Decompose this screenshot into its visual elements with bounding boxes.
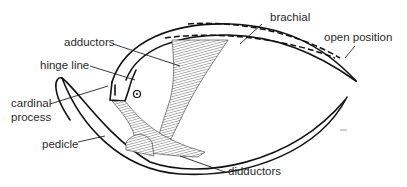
label-hinge-line: hinge line (40, 59, 89, 71)
adductor-muscle (155, 40, 228, 152)
label-open-position: open position (324, 31, 392, 43)
label-process: process (11, 111, 52, 123)
label-cardinal: cardinal (11, 97, 51, 109)
brachiopod-diagram: brachial open position adductors hinge l… (0, 0, 407, 187)
pedicle-valve (56, 78, 347, 175)
label-pedicle: pedicle (42, 138, 78, 150)
label-adductors: adductors (64, 36, 115, 48)
label-didductors: didductors (228, 165, 281, 177)
label-brachial: brachial (270, 11, 310, 23)
